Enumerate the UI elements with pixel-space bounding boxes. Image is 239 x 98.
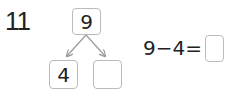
top-number-box: 9 (72, 8, 101, 35)
left-number-box: 4 (49, 60, 78, 89)
equation-answer-box[interactable] (205, 35, 224, 62)
equation-text: 9−4= (143, 36, 202, 60)
right-answer-box[interactable] (93, 60, 122, 89)
